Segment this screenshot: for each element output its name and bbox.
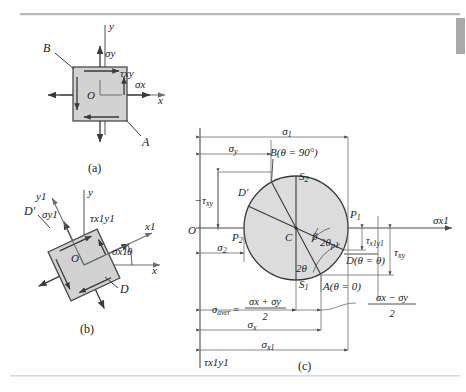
panel-b-tau-x1y1-label: τx1y1 [90,212,115,224]
dim-half-diff-leader [321,303,356,310]
dim-half-diff-den: 2 [389,308,395,319]
point-B-leader [272,159,274,181]
panel-a-corner-B-label: B [43,41,51,55]
panel-b-axis-x-label: x [151,264,157,276]
dim-sigma1-label: σ1 [282,125,291,139]
panel-b-sigma-x1-arrow-left [39,276,60,286]
panel-a-sigma-x-label: σx [135,78,145,90]
point-S1-label: S1 [299,278,309,292]
dim-sigma-x1-label: σx1 [262,338,275,352]
panel-b-sigma-x1-label: σx1 [112,245,128,257]
dim-sigma-x-label: σx [248,318,257,332]
figure-root: y x O σy σx τxy B A (a) y x [0,0,466,392]
panel-b-y1-arrow [52,198,58,205]
panel-b: y x x1 y1 θ O σx1 σy [18,186,160,336]
panel-b-axis-y-label: y [87,186,93,198]
point-P1-label: P1 [349,208,361,222]
top-rule [20,13,460,15]
panel-b-theta-label: θ [127,245,133,257]
panel-b-axis-y1-label: y1 [35,190,46,202]
panel-c-sigma-axis-arrow [445,225,452,230]
panel-c: O σx1 τx1y1 β 2θp1 2θ C P1 P2 S2 S1 B(θ … [188,125,452,373]
point-P2-label: P2 [231,231,243,245]
panel-a-tau-xy-label: τxy [120,67,134,79]
panel-c-sigma-axis-label: σx1 [433,214,449,226]
point-D-label: D(θ = θ) [345,254,385,267]
panel-c-tau-axis-label: τx1y1 [204,356,229,368]
dim-sigma-y-label: σy [229,142,238,156]
panel-b-caption: (b) [80,322,94,336]
panel-c-origin-label: O [188,224,196,236]
panel-b-sigma-y1-label: σy1 [42,208,58,220]
panel-b-sigma-y1-arrow-bottom [95,289,104,308]
point-B-label: B(θ = 90°) [270,146,318,159]
scrollbar-thumb[interactable] [456,18,465,54]
panel-b-face-Dprime-label: D′ [23,204,36,218]
panel-a-corner-A-label: A [141,135,150,149]
panel-a-caption: (a) [88,161,101,175]
panel-a: y x O σy σx τxy B A (a) [43,20,165,175]
panel-b-axis-x1-label: x1 [144,220,155,232]
point-A-label: A(θ = 0) [322,280,361,293]
dim-tau-xy-label: τxy [394,246,405,260]
dim-sigma-aver-frac-den: 2 [262,311,268,322]
panel-b-face-D-label: D [119,282,129,296]
dim-tau-x1y1-label: τx1y1 [366,235,384,248]
mohrs-circle-figure: y x O σy σx τxy B A (a) y x [0,0,466,392]
point-C-dot [294,226,297,229]
dim-sigma-aver-frac-num: σx + σy [249,296,281,307]
point-S2-label: S2 [299,170,309,184]
point-C-label: C [285,231,293,243]
panel-a-axis-x-label: x [157,94,163,106]
panel-a-leader-A [126,120,141,136]
angle-beta-label: β [311,230,318,242]
panel-a-axis-y-label: y [108,20,114,32]
panel-a-sigma-y-label: σy [105,47,115,59]
dim-sigma2-label: σ2 [217,241,226,255]
angle-2theta-label: 2θ [296,262,308,274]
panel-a-leader-B [55,53,74,69]
point-Dprime-label: D′ [237,186,249,198]
panel-c-caption: (c) [298,359,311,373]
bottom-rule [10,375,460,377]
dim-half-diff-num: σx − σy [376,292,408,303]
panel-b-origin-label: O [71,252,79,264]
dim-sigma-aver-label: σaver = [212,304,239,317]
dim-neg-tau-xy-label: −τxy [195,194,214,208]
panel-a-origin-label: O [87,89,95,101]
